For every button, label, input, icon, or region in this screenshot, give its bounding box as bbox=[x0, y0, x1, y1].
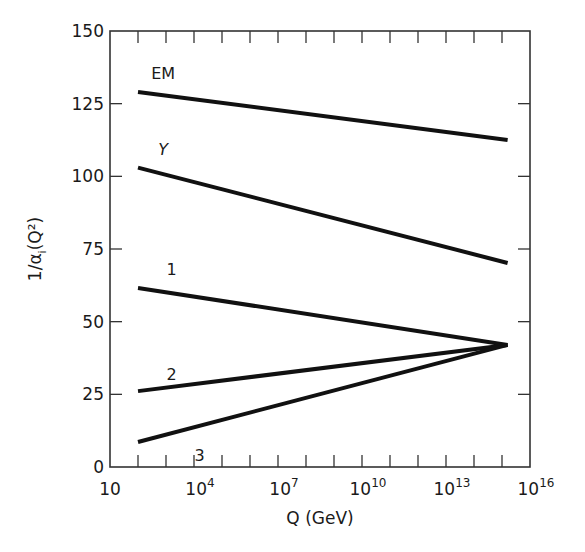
series-label-3: 3 bbox=[195, 446, 205, 465]
y-tick-label: 75 bbox=[82, 239, 104, 259]
x-tick-label: 1013 bbox=[434, 476, 471, 499]
series-lines bbox=[138, 92, 508, 442]
y-tick-label: 150 bbox=[72, 21, 104, 41]
series-label-2: 2 bbox=[167, 365, 177, 384]
series-labels: EMY123 bbox=[151, 64, 204, 465]
x-tick-label: 107 bbox=[269, 476, 298, 499]
series-line-y bbox=[138, 168, 508, 263]
x-tick-label: 10 bbox=[99, 479, 121, 499]
y-axis-title: 1/αi(Q²) bbox=[25, 217, 49, 281]
coupling-unification-chart: 10104107101010131016 0255075100125150 EM… bbox=[0, 0, 585, 552]
x-axis-title: Q (GeV) bbox=[286, 508, 353, 528]
y-axis-title-text: 1/αi(Q²) bbox=[25, 217, 49, 281]
y-tick-label: 125 bbox=[72, 94, 104, 114]
y-tick-label: 0 bbox=[93, 457, 104, 477]
series-line-2 bbox=[138, 345, 508, 391]
x-tick-label: 1016 bbox=[518, 476, 555, 499]
y-tick-label: 100 bbox=[72, 166, 104, 186]
y-tick-label: 50 bbox=[82, 312, 104, 332]
series-label-em: EM bbox=[151, 64, 175, 83]
x-tick-label: 1010 bbox=[350, 476, 387, 499]
series-line-em bbox=[138, 92, 508, 140]
series-label-y: Y bbox=[158, 140, 169, 159]
x-tick-label: 104 bbox=[185, 476, 214, 499]
series-line-1 bbox=[138, 288, 508, 345]
series-line-3 bbox=[138, 345, 508, 442]
y-tick-label: 25 bbox=[82, 384, 104, 404]
series-label-1: 1 bbox=[167, 260, 177, 279]
